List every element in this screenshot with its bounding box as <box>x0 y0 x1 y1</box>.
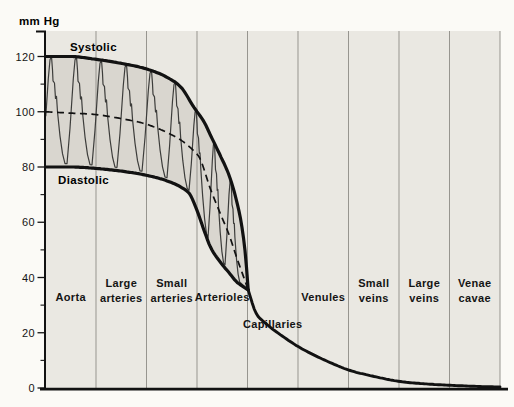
y-axis-unit-label: mm Hg <box>19 15 60 27</box>
y-tick-label: 80 <box>22 161 35 173</box>
vessel-label: Large <box>105 277 137 289</box>
y-tick-label: 0 <box>29 382 35 394</box>
vessel-label: arteries <box>100 292 143 304</box>
vessel-label: arteries <box>150 292 193 304</box>
vessel-label: veins <box>409 292 439 304</box>
textbook-figure-page: 020406080100120 AortaLargearteriesSmalla… <box>0 0 514 407</box>
y-tick-label: 60 <box>22 216 35 228</box>
vessel-label: Venules <box>301 291 345 303</box>
vessel-label: Small <box>358 277 389 289</box>
vessel-label: Capillaries <box>243 318 303 330</box>
vessel-label: Small <box>156 277 187 289</box>
y-tick-label: 120 <box>16 51 35 63</box>
y-tick-label: 100 <box>16 106 35 118</box>
blood-pressure-chart: 020406080100120 AortaLargearteriesSmalla… <box>0 0 514 407</box>
vessel-label: Large <box>408 277 440 289</box>
diastolic-curve-label: Diastolic <box>58 174 109 186</box>
vessel-label: Venae <box>458 277 492 289</box>
systolic-curve-label: Systolic <box>70 41 117 53</box>
vessel-label: veins <box>359 292 389 304</box>
y-tick-label: 20 <box>22 327 35 339</box>
vessel-label: Arterioles <box>195 291 250 303</box>
vessel-label: cavae <box>459 292 491 304</box>
y-tick-label: 40 <box>22 272 35 284</box>
vessel-label: Aorta <box>56 291 87 303</box>
